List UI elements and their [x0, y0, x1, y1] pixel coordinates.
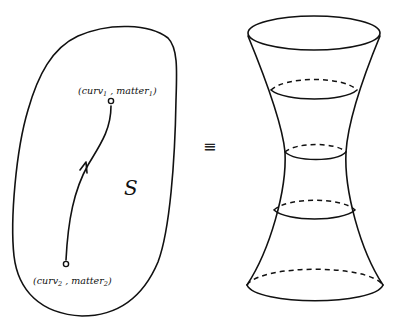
- point-bottom-label: (curv2 , matter2): [33, 275, 112, 288]
- equivalence-symbol: ≡: [203, 137, 216, 156]
- point-top-label: (curv1 , matter1): [78, 85, 157, 98]
- cross-section-2-back: [285, 145, 346, 153]
- cross-section-1-back: [271, 80, 357, 91]
- cross-section-3-front: [274, 210, 355, 219]
- cross-section-2-front: [285, 152, 346, 160]
- hyperboloid-bottom-rim-front: [247, 285, 383, 301]
- cross-section-1-front: [271, 90, 357, 99]
- region-s-label: S: [124, 176, 138, 200]
- diagram-canvas: (curv1 , matter1) (curv2 , matter2) S ≡: [0, 0, 397, 336]
- hyperboloid-bottom-rim-back: [247, 269, 383, 285]
- path-curve: [66, 106, 111, 260]
- hyperboloid-right-wall: [346, 36, 383, 285]
- hyperboloid-top-rim: [248, 16, 380, 50]
- point-bottom-marker: [63, 261, 68, 266]
- region-s-boundary: [13, 26, 177, 316]
- arrow-head-icon: [80, 162, 87, 173]
- point-top-marker: [108, 98, 113, 103]
- cross-section-3-back: [274, 200, 355, 210]
- hyperboloid-left-wall: [247, 36, 285, 285]
- diagram-svg: (curv1 , matter1) (curv2 , matter2) S ≡: [0, 0, 397, 336]
